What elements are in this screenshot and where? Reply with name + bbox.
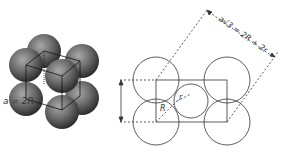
diagonal-label: a√3 = 2R + 2r — [217, 14, 270, 55]
big-radius-label: R — [160, 104, 166, 113]
section-diagram — [119, 10, 278, 145]
sphere-model — [9, 34, 99, 129]
edge-label: a = 2R — [3, 96, 34, 106]
crystal-diagram: a = 2R R r a√3 = 2R + 2r — [0, 0, 288, 153]
small-radius-label: r — [179, 93, 183, 102]
